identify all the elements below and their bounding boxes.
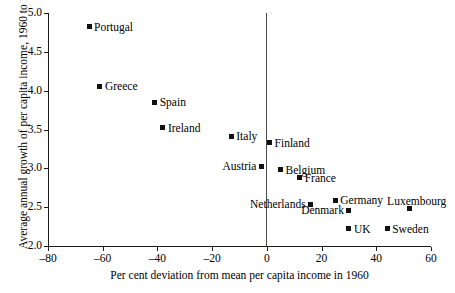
data-point: [229, 134, 234, 139]
data-point-label: UK: [354, 223, 371, 235]
data-point: [385, 226, 390, 231]
x-axis-line: [48, 246, 431, 247]
x-axis-tick-label: –40: [132, 252, 182, 264]
zero-reference-line: [266, 13, 267, 246]
data-point: [346, 208, 351, 213]
data-point-label: Italy: [236, 130, 257, 142]
data-point-label: France: [305, 172, 336, 184]
x-axis-tick-label: 60: [406, 252, 455, 264]
x-axis-tick: [322, 247, 323, 251]
y-axis-line: [48, 13, 49, 246]
x-axis-tick-label: 40: [351, 252, 401, 264]
x-axis-tick-label: 20: [297, 252, 347, 264]
data-point: [333, 198, 338, 203]
y-axis-tick: [44, 207, 48, 208]
x-axis-tick: [267, 247, 268, 251]
y-axis-tick: [44, 52, 48, 53]
data-point: [160, 125, 165, 130]
data-point: [259, 164, 264, 169]
data-point: [346, 226, 351, 231]
x-axis-tick: [157, 247, 158, 251]
x-axis-tick: [103, 247, 104, 251]
x-axis-tick-label: 0: [242, 252, 292, 264]
data-point: [97, 84, 102, 89]
data-point-label: Spain: [160, 96, 186, 108]
data-point-label: Netherlands: [250, 198, 306, 210]
data-point-label: Luxembourg: [387, 195, 446, 207]
y-axis-tick: [44, 130, 48, 131]
y-axis-tick: [44, 13, 48, 14]
y-axis-tick: [44, 168, 48, 169]
x-axis-tick: [376, 247, 377, 251]
x-axis-tick: [48, 247, 49, 251]
data-point-label: Ireland: [168, 122, 201, 134]
data-point-label: Greece: [105, 80, 138, 92]
data-point-label: Austria: [223, 160, 257, 172]
data-point-label: Germany: [340, 194, 383, 206]
x-axis-title: Per cent deviation from mean per capita …: [48, 269, 431, 281]
data-point: [278, 167, 283, 172]
x-axis-tick: [212, 247, 213, 251]
x-axis-tick-label: –80: [23, 252, 73, 264]
data-point-label: Finland: [275, 137, 310, 149]
x-axis-tick: [431, 247, 432, 251]
data-point-label: Denmark: [301, 204, 344, 216]
data-point: [267, 140, 272, 145]
scatter-chart-figure: 2.02.53.03.54.04.55.0 –80–60–40–20020406…: [0, 0, 455, 293]
x-axis-tick-label: –60: [78, 252, 128, 264]
y-axis-title: Average annual growth of per capita inco…: [17, 0, 29, 249]
data-point: [297, 175, 302, 180]
data-point-label: Portugal: [94, 21, 133, 33]
x-axis-tick-label: –20: [187, 252, 237, 264]
data-point-label: Sweden: [392, 223, 428, 235]
data-point: [87, 24, 92, 29]
data-point: [152, 100, 157, 105]
y-axis-tick: [44, 91, 48, 92]
